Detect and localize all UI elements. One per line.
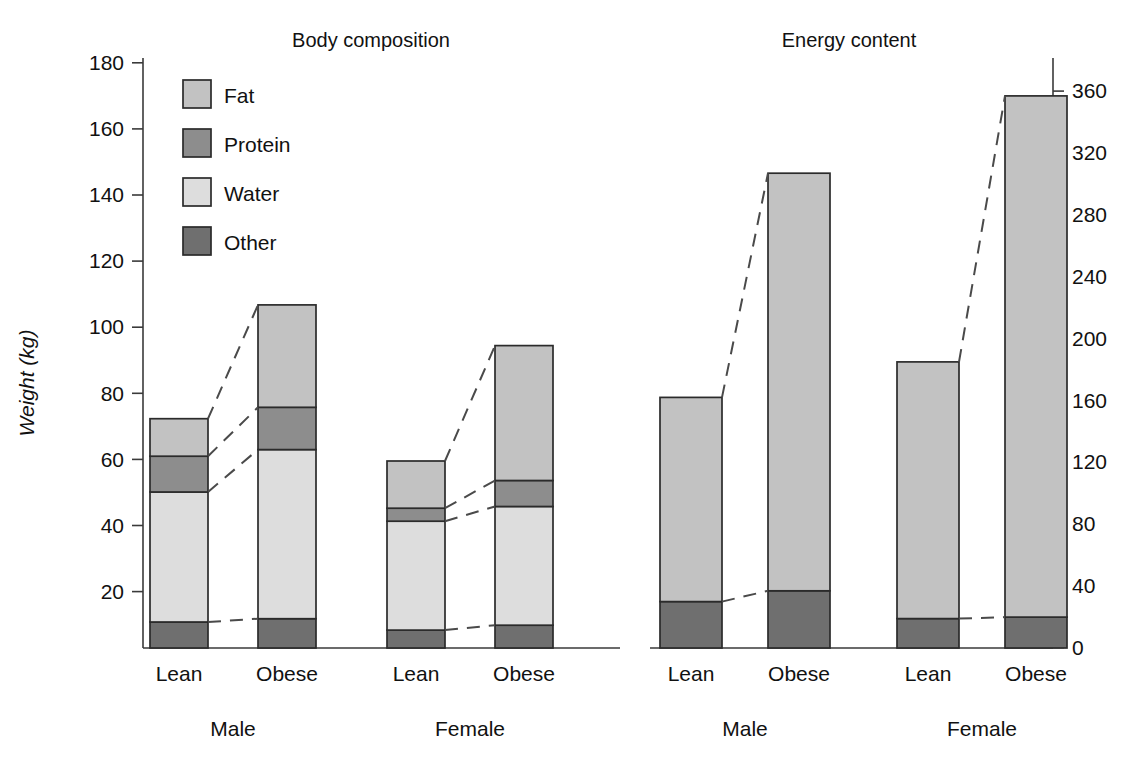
bar-segment-other [660, 602, 722, 648]
left-tick-label: 100 [89, 315, 124, 338]
bar-segment-fat [660, 397, 722, 601]
bar-segment-fat [768, 173, 830, 591]
category-label-male-lean: Lean [668, 662, 715, 685]
right-tick-label: 40 [1072, 574, 1095, 597]
bar-segment-water [495, 507, 553, 626]
right-tick-label: 280 [1072, 203, 1107, 226]
bar-segment-water [150, 492, 208, 622]
category-label-male-obese: Obese [256, 662, 318, 685]
legend-label-protein: Protein [224, 133, 291, 156]
right-tick-label: 320 [1072, 141, 1107, 164]
bar-segment-protein [258, 407, 316, 449]
left-panel: Body composition 180 160 140 120 100 80 … [15, 29, 620, 740]
right-tick-label: 200 [1072, 327, 1107, 350]
bar-segment-other [495, 625, 553, 648]
left-tick-label: 120 [89, 249, 124, 272]
bar-segment-protein [150, 456, 208, 492]
left-tick-label: 80 [101, 382, 124, 405]
bar-segment-water [258, 450, 316, 619]
connector-lines-composition [208, 305, 495, 630]
bar-female-lean-energy [897, 362, 959, 648]
bar-male-lean-composition [150, 419, 208, 648]
category-label-female-lean: Lean [905, 662, 952, 685]
legend-swatch-protein [183, 129, 211, 157]
category-label-female-obese: Obese [493, 662, 555, 685]
legend: Fat Protein Water Other [183, 80, 291, 255]
connector-line [208, 619, 258, 622]
bar-segment-fat [387, 461, 445, 508]
category-label-male-lean: Lean [156, 662, 203, 685]
left-tick-label: 60 [101, 448, 124, 471]
left-tick-label: 40 [101, 514, 124, 537]
category-label-female-obese: Obese [1005, 662, 1067, 685]
left-tick-label: 20 [101, 580, 124, 603]
group-label-male: Male [210, 717, 256, 740]
group-label-female: Female [435, 717, 505, 740]
legend-label-other: Other [224, 231, 277, 254]
category-label-female-lean: Lean [393, 662, 440, 685]
bar-female-lean-composition [387, 461, 445, 648]
group-label-male: Male [722, 717, 768, 740]
right-tick-label: 0 [1072, 636, 1084, 659]
bar-segment-protein [387, 508, 445, 521]
bar-segment-fat [495, 346, 553, 481]
bar-male-lean-energy [660, 397, 722, 648]
group-label-female: Female [947, 717, 1017, 740]
bar-segment-water [387, 521, 445, 630]
connector-line [722, 173, 768, 397]
right-tick-label: 360 [1072, 79, 1107, 102]
bar-segment-protein [495, 481, 553, 507]
connector-line [445, 507, 495, 522]
connector-line [959, 96, 1005, 362]
connector-line [208, 450, 258, 492]
left-y-ticks: 180 160 140 120 100 80 60 40 20 [89, 51, 143, 603]
bar-segment-other [387, 630, 445, 648]
legend-swatch-other [183, 227, 211, 255]
right-tick-label: 160 [1072, 389, 1107, 412]
right-panel-title: Energy content [782, 29, 917, 51]
left-tick-label: 180 [89, 51, 124, 74]
category-label-male-obese: Obese [768, 662, 830, 685]
connector-line [208, 407, 258, 456]
bar-segment-fat [897, 362, 959, 619]
connector-line [445, 625, 495, 630]
legend-swatch-water [183, 178, 211, 206]
right-tick-label: 80 [1072, 512, 1095, 535]
legend-label-fat: Fat [224, 84, 255, 107]
bar-female-obese-composition [495, 346, 553, 648]
connector-lines-energy [722, 96, 1005, 619]
right-tick-label: 120 [1072, 450, 1107, 473]
connector-line [445, 346, 495, 461]
left-panel-title: Body composition [292, 29, 450, 51]
connector-line [959, 617, 1005, 619]
figure-canvas: Body composition 180 160 140 120 100 80 … [0, 0, 1140, 760]
bar-segment-fat [1005, 96, 1067, 617]
bar-segment-other [258, 619, 316, 648]
connector-line [445, 481, 495, 509]
left-tick-label: 140 [89, 183, 124, 206]
bar-segment-fat [150, 419, 208, 457]
bar-segment-fat [258, 305, 316, 407]
bar-female-obese-energy [1005, 96, 1067, 648]
left-tick-label: 160 [89, 117, 124, 140]
right-tick-label: 240 [1072, 265, 1107, 288]
legend-swatch-fat [183, 80, 211, 108]
legend-label-water: Water [224, 182, 279, 205]
bar-segment-other [768, 591, 830, 648]
bar-male-obese-composition [258, 305, 316, 648]
right-panel: Energy content 360 320 280 240 200 160 1… [650, 29, 1107, 740]
bar-segment-other [897, 619, 959, 648]
bar-male-obese-energy [768, 173, 830, 648]
bar-segment-other [1005, 617, 1067, 648]
connector-line [208, 305, 258, 419]
connector-line [722, 591, 768, 602]
bar-segment-other [150, 622, 208, 648]
left-y-axis-title: Weight (kg) [15, 330, 38, 437]
